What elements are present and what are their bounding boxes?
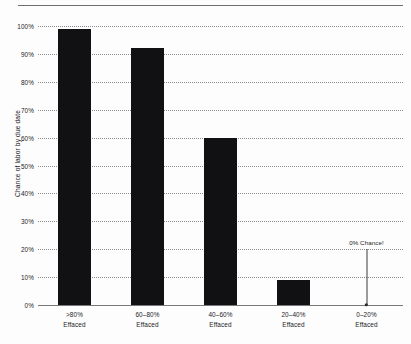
y-tick-label: 80%	[21, 78, 34, 85]
x-tick-label-line: Effaced	[281, 320, 305, 330]
x-tick-label-line: 0–20%	[355, 310, 377, 320]
y-tick-label: 0%	[25, 302, 34, 309]
x-tick-label: 20–40%Effaced	[281, 310, 305, 329]
bar	[58, 29, 91, 305]
x-tick-label-line: Effaced	[135, 320, 159, 330]
x-tick-label: >80%Effaced	[63, 310, 85, 329]
axis-baseline	[38, 305, 403, 306]
bar	[204, 138, 237, 305]
x-tick-label: 0–20%Effaced	[355, 310, 377, 329]
top-divider-rule	[18, 5, 403, 6]
y-tick-label: 70%	[21, 106, 34, 113]
y-tick-label: 50%	[21, 162, 34, 169]
gridline	[38, 110, 403, 111]
y-tick-label: 20%	[21, 246, 34, 253]
y-tick-label: 100%	[17, 23, 34, 30]
annotation-label: 0% Chance!	[349, 239, 384, 246]
x-tick-label-line: Effaced	[208, 320, 232, 330]
chart-figure: Chance of labor by due date 0%10%20%30%4…	[0, 0, 411, 344]
annotation-leader-line	[366, 249, 367, 305]
y-tick-label: 30%	[21, 218, 34, 225]
y-tick-label: 10%	[21, 274, 34, 281]
bar	[131, 48, 164, 305]
x-tick-label: 60–80%Effaced	[135, 310, 159, 329]
gridline	[38, 26, 403, 27]
x-tick-label-line: 20–40%	[281, 310, 305, 320]
x-tick-label-line: 40–60%	[208, 310, 232, 320]
gridline	[38, 54, 403, 55]
y-tick-label: 60%	[21, 134, 34, 141]
bar	[277, 280, 310, 305]
x-tick-label-line: >80%	[63, 310, 85, 320]
y-tick-label: 90%	[21, 50, 34, 57]
x-tick-label: 40–60%Effaced	[208, 310, 232, 329]
x-tick-label-line: 60–80%	[135, 310, 159, 320]
x-tick-label-line: Effaced	[355, 320, 377, 330]
y-tick-label: 40%	[21, 190, 34, 197]
plot-area: 0%10%20%30%40%50%60%70%80%90%100% >80%Ef…	[38, 26, 403, 305]
x-tick-label-line: Effaced	[63, 320, 85, 330]
y-axis-title: Chance of labor by due date	[14, 74, 21, 234]
gridline	[38, 82, 403, 83]
